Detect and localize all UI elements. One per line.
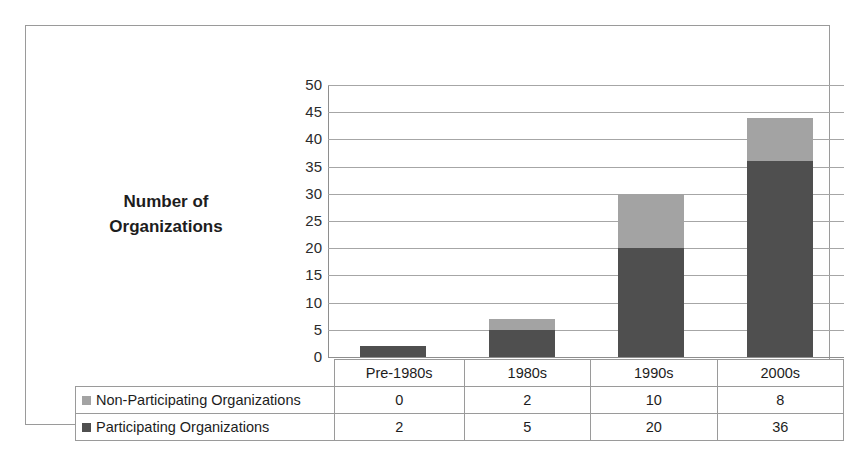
non-participating-swatch-icon [82,396,91,405]
bar-segment-1990s-non-participating-organizations[interactable] [618,194,684,248]
y-tick-label-45: 45 [278,104,322,119]
participating-swatch-icon [82,423,91,432]
y-axis-title: Number of Organizations [61,189,271,239]
bar-segment-1990s-participating-organizations[interactable] [618,248,684,357]
table-cell-pre-1980s: 0 [334,387,464,414]
y-axis-title-line-1: Number of [61,189,271,214]
bar-segment-2000s-non-participating-organizations[interactable] [747,118,813,162]
y-tick-label-35: 35 [278,159,322,174]
chart-frame: Number of Organizations 0510152025303540… [25,25,830,425]
bar-group-1980s[interactable] [489,85,555,357]
bar-segment-pre-1980s-participating-organizations[interactable] [360,346,426,357]
legend-label: Participating Organizations [96,419,269,435]
y-axis-tick-labels: 05101520253035404550 [276,85,322,358]
table-corner-cell [76,360,335,387]
y-tick-label-5: 5 [278,322,322,337]
bar-group-pre-1980s[interactable] [360,85,426,357]
y-tick-label-10: 10 [278,295,322,310]
table-row: Non-Participating Organizations02108 [76,387,844,414]
y-tick-label-50: 50 [278,77,322,92]
y-tick-label-20: 20 [278,240,322,255]
y-tick-label-30: 30 [278,186,322,201]
table-cell-2000s: 8 [717,387,843,414]
legend-entry-participating: Participating Organizations [76,414,335,441]
table-category-header-1990s: 1990s [591,360,717,387]
bar-group-2000s[interactable] [747,85,813,357]
table-category-header-1980s: 1980s [464,360,590,387]
y-axis-title-line-2: Organizations [61,214,271,239]
plot-area [328,85,844,357]
table-cell-1980s: 2 [464,387,590,414]
table-category-header-pre-1980s: Pre-1980s [334,360,464,387]
table-header-row: Pre-1980s1980s1990s2000s [76,360,844,387]
legend-label: Non-Participating Organizations [96,392,301,408]
bar-segment-1980s-non-participating-organizations[interactable] [489,319,555,330]
bar-group-1990s[interactable] [618,85,684,357]
data-table: Pre-1980s1980s1990s2000sNon-Participatin… [75,359,844,441]
table-cell-1990s: 20 [591,414,717,441]
table-cell-1990s: 10 [591,387,717,414]
y-tick-label-25: 25 [278,213,322,228]
table-row: Participating Organizations252036 [76,414,844,441]
table-cell-2000s: 36 [717,414,843,441]
y-tick-label-40: 40 [278,131,322,146]
bar-segment-2000s-participating-organizations[interactable] [747,161,813,357]
table-cell-pre-1980s: 2 [334,414,464,441]
bar-segment-1980s-participating-organizations[interactable] [489,330,555,357]
data-table-body: Pre-1980s1980s1990s2000sNon-Participatin… [76,360,844,441]
legend-entry-non-participating: Non-Participating Organizations [76,387,335,414]
y-tick-label-15: 15 [278,267,322,282]
table-cell-1980s: 5 [464,414,590,441]
table-category-header-2000s: 2000s [717,360,843,387]
gridline-0 [328,357,844,358]
